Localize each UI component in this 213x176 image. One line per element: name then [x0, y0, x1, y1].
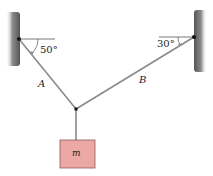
right-angle-arc [178, 37, 180, 45]
cable-b [76, 37, 194, 109]
right-wall [194, 10, 207, 72]
left-angle-arc [32, 39, 38, 53]
mass-label: m [72, 149, 81, 158]
cable-b-label: B [139, 75, 146, 85]
diagram-canvas [0, 0, 213, 176]
cable-a-label: A [38, 79, 45, 89]
left-angle-label: 50° [40, 45, 58, 55]
junction-point [75, 108, 78, 111]
left-attachment-point [17, 37, 21, 41]
right-attachment-point [192, 35, 196, 39]
right-angle-label: 30° [157, 39, 175, 49]
